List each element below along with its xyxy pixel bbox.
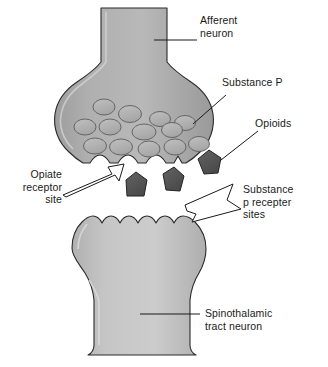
vesicle	[119, 106, 142, 123]
opioid-molecule	[163, 167, 184, 191]
presynaptic-afferent-neuron	[55, 8, 214, 163]
opioid-molecule	[126, 172, 147, 196]
leader-line-opioids	[221, 131, 258, 160]
label-substance-p-receptor-sites: Substance p recepter sites	[243, 183, 294, 221]
vesicle	[93, 99, 115, 115]
vesicle	[164, 139, 186, 155]
label-spinothalamic-tract-neuron: Spinothalamic tract neuron	[205, 307, 272, 332]
opioid-molecule	[198, 150, 221, 174]
synapse-diagram-figure: Afferent neuron Substance P Opioids Opia…	[0, 0, 328, 367]
vesicle	[84, 138, 107, 154]
vesicle	[74, 119, 96, 135]
opiate-receptor-site-arrow	[63, 164, 124, 197]
vesicle	[162, 123, 183, 138]
substance-p-receptor-sites-arrow	[185, 184, 241, 222]
vesicle	[132, 124, 156, 140]
label-opiate-receptor-site: Opiate receptor site	[0, 168, 62, 206]
vesicle	[189, 137, 210, 152]
vesicle	[99, 119, 121, 135]
label-opioids: Opioids	[255, 117, 291, 130]
postsynaptic-spinothalamic-neuron	[72, 216, 206, 355]
label-afferent-neuron: Afferent neuron	[200, 14, 237, 39]
vesicle	[138, 141, 160, 157]
afferent-neuron-body	[55, 8, 214, 163]
label-substance-p: Substance P	[222, 76, 283, 89]
vesicle	[110, 139, 133, 155]
